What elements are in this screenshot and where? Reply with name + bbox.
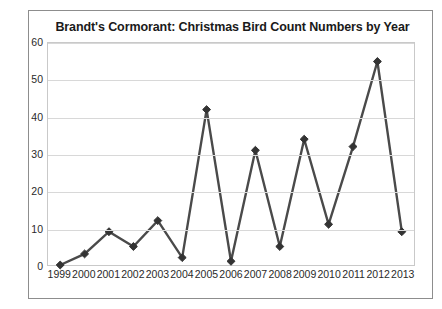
y-tick-label: 50 (19, 73, 43, 85)
x-tick-label: 2002 (121, 268, 144, 280)
gridline (48, 155, 414, 156)
x-tick-label: 2008 (268, 268, 291, 280)
y-tick-label: 10 (19, 223, 43, 235)
y-tick-label: 40 (19, 111, 43, 123)
data-point-marker (300, 135, 308, 143)
y-tick-label: 60 (19, 36, 43, 48)
x-tick-label: 2012 (367, 268, 390, 280)
plot-area (47, 42, 415, 266)
plot-inner (48, 43, 414, 265)
gridline (48, 230, 414, 231)
gridline (48, 118, 414, 119)
gridline (48, 43, 414, 44)
x-tick-label: 2001 (97, 268, 120, 280)
line-series (48, 43, 414, 265)
y-tick-label: 0 (19, 260, 43, 272)
x-axis: 1999200020012002200320042005200620072008… (47, 268, 415, 286)
data-point-marker (373, 58, 381, 66)
data-point-marker (276, 243, 284, 251)
x-tick-label: 2000 (72, 268, 95, 280)
x-tick-label: 2011 (342, 268, 365, 280)
y-axis: 0102030405060 (12, 42, 43, 266)
x-tick-label: 2009 (293, 268, 316, 280)
data-point-marker (227, 257, 235, 265)
x-tick-label: 2013 (391, 268, 414, 280)
data-point-marker (251, 146, 259, 154)
y-tick-label: 20 (19, 185, 43, 197)
x-tick-label: 2007 (244, 268, 267, 280)
x-tick-label: 1999 (48, 268, 71, 280)
x-tick-label: 2004 (170, 268, 193, 280)
gridline (48, 192, 414, 193)
x-tick-label: 2006 (219, 268, 242, 280)
x-tick-label: 2005 (195, 268, 218, 280)
x-tick-label: 2010 (317, 268, 340, 280)
gridline (48, 80, 414, 81)
series-line (60, 62, 402, 265)
data-point-marker (203, 106, 211, 114)
chart-figure: Brandt's Cormorant: Christmas Bird Count… (0, 0, 442, 309)
chart-title: Brandt's Cormorant: Christmas Bird Count… (40, 20, 425, 34)
data-point-marker (349, 143, 357, 151)
y-tick-label: 30 (19, 148, 43, 160)
x-tick-label: 2003 (146, 268, 169, 280)
data-point-marker (325, 220, 333, 228)
